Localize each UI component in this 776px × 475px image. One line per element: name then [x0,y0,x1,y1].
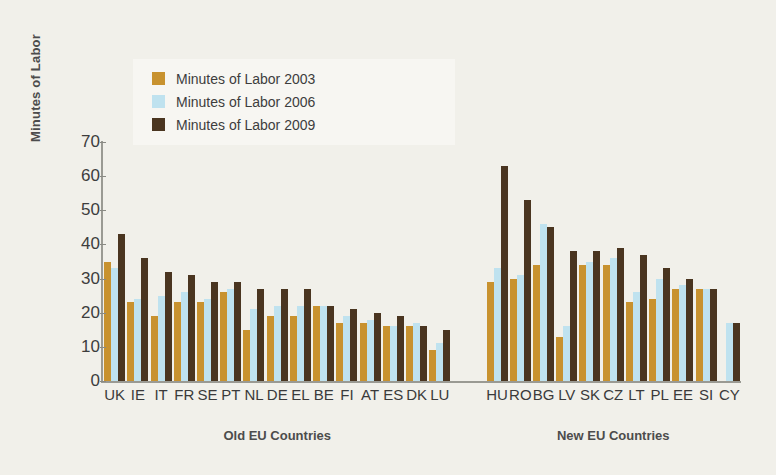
bar-group [428,142,451,381]
y-axis-tick-mark [100,244,106,245]
bar-DK-2003 [406,326,413,381]
bar-BE-2006 [320,306,327,381]
x-axis-tick-label: HU [485,386,508,403]
bar-EL-2003 [290,316,297,381]
y-axis-tick-label: 10 [60,337,100,357]
bar-SI-2009 [710,289,717,381]
x-axis-tick-label: IE [126,386,149,403]
x-axis-tick-label: DE [266,386,289,403]
y-axis-title: Minutes of Labor [28,0,43,178]
legend-label-2003: Minutes of Labor 2003 [176,71,315,87]
bar-AT-2006 [367,320,374,381]
y-axis-tick-mark [100,210,106,211]
bar-group [485,142,508,381]
y-axis-tick-mark [100,381,106,382]
y-axis-tick-mark [100,313,106,314]
bar-FR-2009 [188,275,195,381]
x-axis-tick-label: LU [428,386,451,403]
bar-group [695,142,718,381]
x-axis-tick-label: BE [312,386,335,403]
bar-IE-2003 [127,302,134,381]
x-axis-tick-label: PL [648,386,671,403]
y-axis-tick-label: 40 [60,234,100,254]
legend-swatch-2006-icon [152,95,165,108]
bar-BG-2009 [547,227,554,381]
bar-SE-2006 [204,299,211,381]
bar-NL-2009 [257,289,264,381]
x-axis-tick-label: RO [509,386,532,403]
bar-SE-2003 [197,302,204,381]
section-label-new-eu: New EU Countries [485,428,741,443]
bar-group [242,142,265,381]
bar-AT-2009 [374,313,381,381]
bar-PT-2009 [234,282,241,381]
bar-LU-2006 [436,343,443,381]
bar-DE-2009 [281,289,288,381]
bar-RO-2003 [510,279,517,381]
bar-LT-2006 [633,292,640,381]
x-axis-tick-label: PT [219,386,242,403]
x-axis-tick-label: ES [382,386,405,403]
bar-EL-2006 [297,306,304,381]
bar-HU-2009 [501,166,508,381]
bar-group [312,142,335,381]
y-axis-tick-label: 50 [60,200,100,220]
x-axis-tick-label: UK [103,386,126,403]
bar-LU-2009 [443,330,450,381]
bar-group [509,142,532,381]
x-axis-line [101,381,741,383]
bar-FI-2003 [336,323,343,381]
bar-EL-2009 [304,289,311,381]
x-axis-tick-label: EL [289,386,312,403]
y-axis-tick-label: 30 [60,269,100,289]
bar-PT-2003 [220,292,227,381]
bar-DE-2006 [274,306,281,381]
bar-group [126,142,149,381]
bar-RO-2006 [517,275,524,381]
bar-IT-2003 [151,316,158,381]
bar-group [578,142,601,381]
bar-LT-2009 [640,255,647,381]
bar-PL-2009 [663,268,670,381]
x-axis-tick-label: CY [718,386,741,403]
bar-LV-2009 [570,251,577,381]
bar-CY-2006 [726,323,733,381]
bar-group [219,142,242,381]
bar-ES-2009 [397,316,404,381]
bar-EE-2006 [679,285,686,381]
bar-group [173,142,196,381]
bar-ES-2003 [383,326,390,381]
bar-NL-2006 [250,309,257,381]
y-axis-tick-mark [100,279,106,280]
bar-IT-2006 [158,296,165,381]
bar-group [196,142,219,381]
bar-group [149,142,172,381]
legend-item-2006: Minutes of Labor 2006 [152,90,455,113]
legend-item-2009: Minutes of Labor 2009 [152,113,455,136]
bar-IE-2009 [141,258,148,381]
bar-IT-2009 [165,272,172,381]
bar-PL-2006 [656,279,663,381]
section-label-old-eu: Old EU Countries [103,428,451,443]
y-axis-tick-label: 70 [60,132,100,152]
bar-group [335,142,358,381]
chart-canvas: Minutes of Labor 010203040506070 Minutes… [0,0,776,475]
y-axis-tick-label: 0 [60,371,100,391]
bar-FI-2006 [343,316,350,381]
bar-LT-2003 [626,302,633,381]
bar-IE-2006 [134,299,141,381]
x-axis-tick-label: FR [173,386,196,403]
x-axis-tick-label: LT [625,386,648,403]
bar-CZ-2009 [617,248,624,381]
bar-group [382,142,405,381]
y-axis-tick-mark [100,142,106,143]
bar-group [289,142,312,381]
bar-SK-2003 [579,265,586,381]
bar-HU-2003 [487,282,494,381]
bar-RO-2009 [524,200,531,381]
bar-ES-2006 [390,326,397,381]
bar-group [625,142,648,381]
x-axis-tick-label: SK [578,386,601,403]
legend-swatch-2003-icon [152,72,165,85]
bar-group [405,142,428,381]
